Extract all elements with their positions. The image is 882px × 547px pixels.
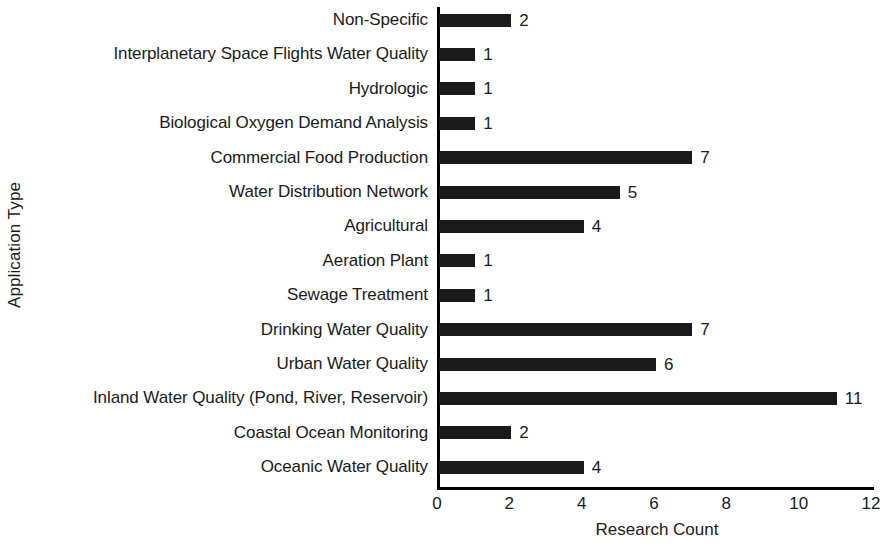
plot-area: 211175411761124 [437, 7, 877, 489]
bar [439, 323, 692, 336]
bar-value-label: 11 [845, 389, 863, 408]
bar-value-label: 7 [700, 148, 709, 167]
bar [439, 461, 584, 474]
bar-value-label: 4 [592, 458, 601, 477]
bar-row: 2 [439, 426, 873, 439]
bar [439, 358, 656, 371]
category-label: Coastal Ocean Monitoring [24, 424, 428, 442]
x-axis-tick-label: 2 [505, 494, 514, 514]
bar [439, 82, 475, 95]
bar-value-label: 2 [519, 11, 528, 30]
bar-value-label: 1 [483, 251, 492, 270]
bar-row: 11 [439, 392, 873, 405]
category-label: Water Distribution Network [24, 183, 428, 201]
bar-row: 4 [439, 220, 873, 233]
bar [439, 392, 837, 405]
bar [439, 220, 584, 233]
category-label: Drinking Water Quality [24, 321, 428, 339]
bar [439, 289, 475, 302]
bar-row: 4 [439, 461, 873, 474]
bar-value-label: 4 [592, 217, 601, 236]
x-axis-tick-labels: 024681012 [437, 494, 877, 518]
bar-row: 1 [439, 82, 873, 95]
bar-value-label: 2 [519, 423, 528, 442]
bar-row: 1 [439, 254, 873, 267]
bar-row: 5 [439, 186, 873, 199]
x-axis-line [437, 487, 874, 490]
category-label: Oceanic Water Quality [24, 458, 428, 476]
bar-row: 1 [439, 48, 873, 61]
bar [439, 151, 692, 164]
bar [439, 48, 475, 61]
bar-value-label: 5 [628, 183, 637, 202]
y-axis-title-text: Application Type [5, 182, 25, 308]
category-label: Hydrologic [24, 80, 428, 98]
category-label: Sewage Treatment [24, 286, 428, 304]
bar-value-label: 6 [664, 355, 673, 374]
x-axis-tick-label: 4 [577, 494, 586, 514]
bar [439, 254, 475, 267]
x-axis-tick-label: 0 [432, 494, 441, 514]
x-axis-tick-label: 8 [722, 494, 731, 514]
category-label: Biological Oxygen Demand Analysis [24, 114, 428, 132]
bar-value-label: 1 [483, 45, 492, 64]
bar-value-label: 1 [483, 286, 492, 305]
bar-chart: Application Type Non-SpecificInterplanet… [0, 0, 882, 547]
bar [439, 186, 620, 199]
bar-row: 7 [439, 151, 873, 164]
bar [439, 117, 475, 130]
category-label: Interplanetary Space Flights Water Quali… [24, 45, 428, 63]
bar-row: 7 [439, 323, 873, 336]
bar-row: 2 [439, 14, 873, 27]
bar-row: 1 [439, 289, 873, 302]
bar-value-label: 1 [483, 79, 492, 98]
category-label-list: Non-SpecificInterplanetary Space Flights… [24, 7, 428, 489]
bar-value-label: 1 [483, 114, 492, 133]
x-axis-tick-label: 10 [789, 494, 808, 514]
category-label: Urban Water Quality [24, 355, 428, 373]
category-label: Commercial Food Production [24, 149, 428, 167]
bar [439, 426, 511, 439]
bar-row: 6 [439, 358, 873, 371]
y-axis-line [437, 7, 440, 489]
category-label: Aeration Plant [24, 252, 428, 270]
bar-row: 1 [439, 117, 873, 130]
category-label: Inland Water Quality (Pond, River, Reser… [24, 389, 428, 407]
x-axis-tick-label: 6 [649, 494, 658, 514]
x-axis-title: Research Count [437, 520, 877, 540]
bar-value-label: 7 [700, 320, 709, 339]
category-label: Non-Specific [24, 11, 428, 29]
x-axis-tick-label: 12 [862, 494, 881, 514]
bar [439, 14, 511, 27]
category-label: Agricultural [24, 217, 428, 235]
